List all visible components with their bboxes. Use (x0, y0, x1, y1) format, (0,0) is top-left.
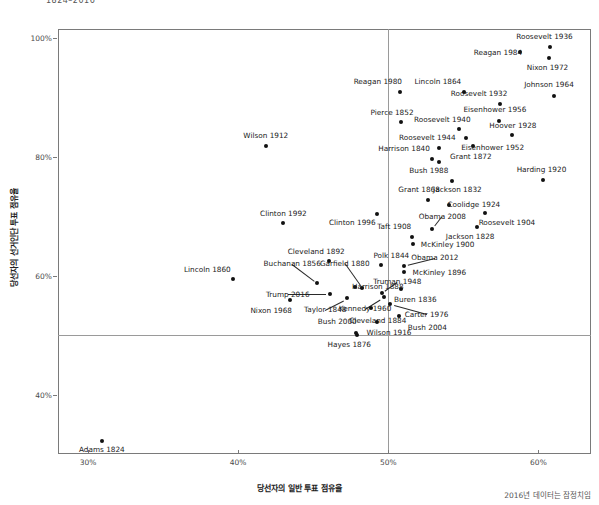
scatter-point[interactable] (462, 90, 466, 94)
scatter-point-label: Buchanan 1856 (264, 260, 321, 267)
scatter-point[interactable] (464, 136, 468, 140)
chart-title: 1824–2016 (46, 0, 95, 5)
scatter-point-label: Nixon 1972 (527, 64, 569, 71)
scatter-point-label: Roosevelt 1944 (399, 134, 456, 141)
scatter-point[interactable] (450, 179, 454, 183)
scatter-point-label: Johnson 1964 (524, 81, 574, 88)
scatter-point-label: Trump 2016 (266, 291, 310, 298)
scatter-point[interactable] (483, 211, 487, 215)
scatter-point-label: Lincoln 1860 (184, 266, 231, 273)
scatter-point[interactable] (397, 314, 401, 318)
reference-line-horizontal (58, 335, 591, 336)
plot-frame (58, 29, 591, 454)
scatter-point-label: Roosevelt 1932 (451, 90, 508, 97)
scatter-point-label: Wilson 1912 (243, 132, 288, 139)
x-tick-mark (388, 450, 389, 454)
scatter-point[interactable] (411, 242, 415, 246)
scatter-point[interactable] (281, 221, 285, 225)
scatter-point-label: Coolidge 1924 (448, 201, 501, 208)
scatter-point[interactable] (430, 227, 434, 231)
scatter-point-label: Reagan 1980 (354, 78, 402, 85)
scatter-point-label: Eisenhower 1956 (463, 106, 526, 113)
scatter-point-label: Hoover 1928 (489, 122, 536, 129)
scatter-point[interactable] (437, 146, 441, 150)
scatter-point-label: Carter 1976 (405, 311, 449, 318)
scatter-point[interactable] (379, 263, 383, 267)
scatter-point[interactable] (264, 144, 268, 148)
scatter-point[interactable] (288, 298, 292, 302)
y-tick-label: 60% (35, 271, 52, 280)
scatter-point[interactable] (402, 270, 406, 274)
x-tick-label: 40% (230, 458, 247, 467)
scatter-point-label: Wilson 1916 (367, 329, 412, 336)
scatter-point-label: Hayes 1876 (328, 341, 371, 348)
scatter-point-label: Clinton 1996 (329, 219, 376, 226)
y-tick-mark (53, 395, 57, 396)
scatter-point-label: Pierce 1852 (371, 109, 414, 116)
scatter-point[interactable] (552, 94, 556, 98)
scatter-point-label: Grant 1872 (450, 153, 492, 160)
y-tick-mark (53, 157, 57, 158)
x-tick-label: 30% (80, 458, 97, 467)
scatter-point-label: Reagan 1984 (474, 49, 522, 56)
scatter-point[interactable] (547, 56, 551, 60)
scatter-point[interactable] (410, 235, 414, 239)
scatter-point-label: Obama 2008 (419, 213, 466, 220)
scatter-point[interactable] (398, 90, 402, 94)
scatter-point[interactable] (402, 264, 406, 268)
reference-line-vertical (388, 29, 389, 454)
scatter-point-label: Bush 2004 (408, 324, 447, 331)
scatter-point[interactable] (382, 295, 386, 299)
scatter-point-label: Jackson 1828 (446, 233, 495, 240)
scatter-point-label: Harrison 1840 (378, 145, 430, 152)
scatter-point-label: McKinley 1900 (421, 241, 474, 248)
scatter-point[interactable] (541, 178, 545, 182)
scatter-point[interactable] (375, 320, 379, 324)
x-tick-mark (538, 450, 539, 454)
scatter-point[interactable] (315, 281, 319, 285)
scatter-point-label: Roosevelt 1936 (516, 33, 573, 40)
scatter-point[interactable] (399, 287, 403, 291)
scatter-point-label: Eisenhower 1952 (461, 144, 524, 151)
scatter-point-label: Cleveland 1892 (288, 248, 345, 255)
scatter-point[interactable] (426, 198, 430, 202)
scatter-point-label: Roosevelt 1940 (414, 116, 471, 123)
scatter-point[interactable] (399, 120, 403, 124)
scatter-point[interactable] (497, 119, 501, 123)
y-tick-label: 40% (35, 390, 52, 399)
scatter-point[interactable] (375, 212, 379, 216)
scatter-point[interactable] (430, 157, 434, 161)
x-tick-label: 60% (530, 458, 547, 467)
scatter-point-label: Truman 1948 (373, 278, 421, 285)
scatter-point-label: Buren 1836 (394, 296, 436, 303)
scatter-point[interactable] (388, 302, 392, 306)
scatter-point[interactable] (498, 102, 502, 106)
y-tick-mark (53, 38, 57, 39)
scatter-point[interactable] (548, 45, 552, 49)
scatter-point-label: Lincoln 1864 (414, 78, 461, 85)
scatter-point[interactable] (380, 291, 384, 295)
chart-root: 1824–2016 40%60%80%100%30%40%50%60% Adam… (0, 0, 599, 505)
scatter-point[interactable] (369, 306, 373, 310)
scatter-point-label: Obama 2012 (411, 254, 458, 261)
scatter-point-label: Adams 1824 (79, 446, 125, 453)
scatter-point-label: Polk 1844 (373, 252, 409, 259)
scatter-point[interactable] (328, 292, 332, 296)
y-tick-label: 80% (35, 152, 52, 161)
scatter-point[interactable] (360, 286, 364, 290)
scatter-point[interactable] (457, 127, 461, 131)
scatter-point[interactable] (437, 160, 441, 164)
scatter-point-label: Kennedy 1960 (339, 305, 392, 312)
scatter-point-label: McKinley 1896 (413, 269, 466, 276)
scatter-point-label: Nixon 1968 (250, 307, 292, 314)
scatter-point-label: Bush 1988 (409, 167, 448, 174)
scatter-point[interactable] (231, 277, 235, 281)
scatter-point[interactable] (100, 439, 104, 443)
scatter-point[interactable] (510, 133, 514, 137)
scatter-point[interactable] (355, 333, 359, 337)
x-tick-mark (238, 450, 239, 454)
y-tick-label: 100% (31, 33, 52, 42)
scatter-point-label: Harding 1920 (517, 166, 567, 173)
scatter-point[interactable] (345, 296, 349, 300)
scatter-point-label: Garfield 1880 (320, 260, 370, 267)
